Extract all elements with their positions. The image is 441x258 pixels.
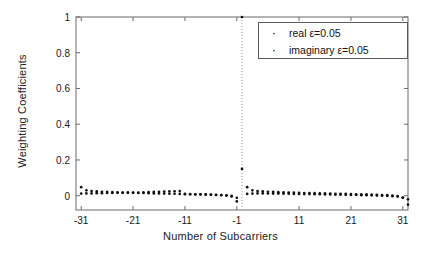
x-tick-label: 21 bbox=[345, 215, 356, 226]
series-imaginary-points bbox=[80, 168, 410, 206]
legend-label-real: real ε=0.05 bbox=[289, 27, 341, 39]
y-tick-label: 0 bbox=[36, 190, 70, 201]
chart-legend: · real ε=0.05 · imaginary ε=0.05 bbox=[258, 22, 408, 59]
legend-entry-imaginary: · imaginary ε=0.05 bbox=[259, 41, 407, 59]
y-tick-label: 0.4 bbox=[36, 119, 70, 130]
x-tick-label: 31 bbox=[397, 215, 408, 226]
x-tick-label: 11 bbox=[294, 215, 304, 226]
figure-canvas: -31-21-11-111213100.20.40.60.81 Number o… bbox=[0, 0, 441, 258]
x-tick-label: -31 bbox=[74, 215, 88, 226]
x-axis-label: Number of Subcarriers bbox=[0, 230, 441, 242]
y-tick-label: 1 bbox=[36, 12, 70, 23]
legend-marker-dot-real: · bbox=[259, 29, 289, 37]
y-tick-label: 0.8 bbox=[36, 47, 70, 58]
x-tick-label: -11 bbox=[178, 215, 192, 226]
y-tick-label: 0.2 bbox=[36, 154, 70, 165]
y-axis-label: Weighting Coefficients bbox=[16, 41, 28, 181]
x-tick-label: -1 bbox=[232, 215, 241, 226]
legend-label-imaginary: imaginary ε=0.05 bbox=[289, 44, 369, 56]
x-tick-label: -21 bbox=[126, 215, 140, 226]
legend-entry-real: · real ε=0.05 bbox=[259, 24, 407, 42]
legend-marker-dot-imaginary: · bbox=[259, 46, 289, 54]
y-tick-label: 0.6 bbox=[36, 83, 70, 94]
